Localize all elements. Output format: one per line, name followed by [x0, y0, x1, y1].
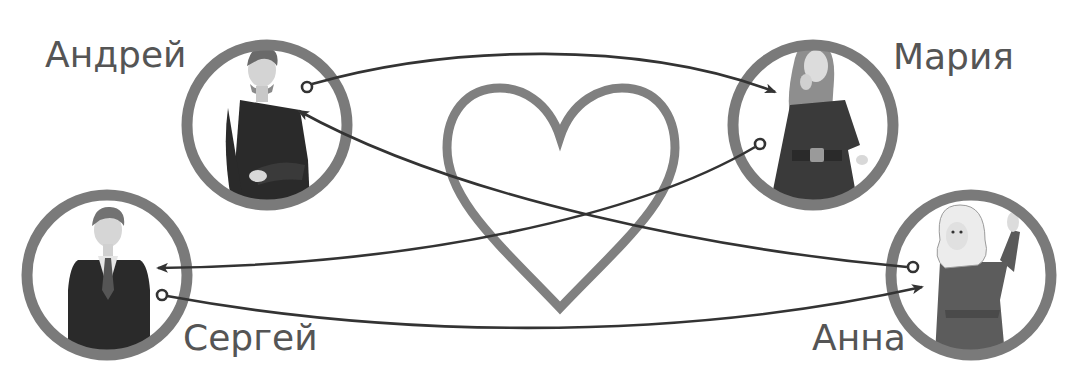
- origin-dot-maria: [755, 139, 765, 149]
- portrait-sergey: [27, 195, 187, 355]
- love-chain-diagram: Андрей Мария Сергей Анна: [0, 0, 1091, 388]
- origin-dot-anna: [908, 262, 918, 272]
- label-andrey: Андрей: [45, 37, 186, 73]
- label-anna: Анна: [812, 320, 906, 356]
- portrait-maria: [733, 42, 893, 205]
- label-maria: Мария: [893, 39, 1014, 75]
- origin-dot-andrey: [302, 82, 312, 92]
- origin-dot-sergey: [157, 290, 167, 300]
- arrow-andrey-to-maria: [312, 54, 775, 92]
- label-sergey: Сергей: [183, 320, 318, 356]
- portrait-anna: [891, 195, 1051, 355]
